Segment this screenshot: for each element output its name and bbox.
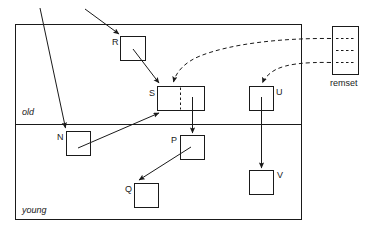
node-label-P: P bbox=[171, 135, 177, 145]
node-box-P bbox=[181, 136, 205, 160]
node-label-R: R bbox=[112, 37, 119, 47]
node-label-U: U bbox=[276, 87, 283, 97]
remset-label: remset bbox=[330, 78, 358, 88]
diagram-canvas: old young remset R S U N P Q V bbox=[0, 0, 368, 229]
node-box-V bbox=[250, 171, 274, 195]
node-box-Q bbox=[135, 184, 159, 208]
node-label-V: V bbox=[277, 170, 283, 180]
region-label-old: old bbox=[22, 107, 35, 117]
node-box-N bbox=[67, 132, 91, 156]
diagram-svg: old young remset R S U N P Q V bbox=[0, 0, 368, 229]
node-label-Q: Q bbox=[125, 184, 132, 194]
node-label-S: S bbox=[149, 88, 155, 98]
region-label-young: young bbox=[21, 205, 47, 215]
node-label-N: N bbox=[57, 132, 64, 142]
node-box-R bbox=[121, 37, 146, 61]
